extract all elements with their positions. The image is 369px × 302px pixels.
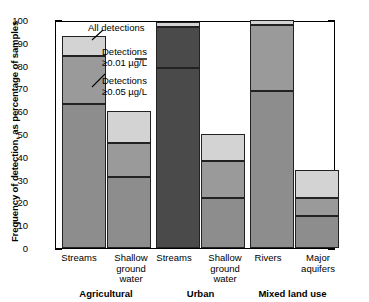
y-tick-label-100: 100 — [0, 16, 28, 26]
x-tick-label-major-aquifers-line2: aquifers — [291, 264, 345, 275]
x-tick-label-urban-sgw-line3: water — [199, 274, 251, 285]
y-tick-label-30: 30 — [0, 176, 28, 186]
bar-segment-detections-005 — [62, 104, 106, 248]
y-tick-label-20: 20 — [0, 198, 28, 208]
annotation-detections-005: Detections ≥0.05 µg/L — [102, 76, 147, 97]
annotation-detections-001-line1: Detections — [102, 47, 147, 58]
group-label-urban: Urban — [150, 288, 251, 299]
y-tick-label-0: 0 — [0, 244, 28, 254]
bar-segment-detections-001 — [295, 198, 339, 216]
chart-figure: Frequency of detection, as percentage of… — [0, 0, 369, 302]
bars-container — [56, 22, 334, 248]
bar-segment-detections-005 — [250, 91, 294, 248]
x-tick-label-major-aquifers-line1: Major — [291, 253, 345, 264]
y-tick-label-90: 90 — [0, 39, 28, 49]
x-tick-label-rivers: Rivers — [244, 253, 292, 264]
bar-segment-detections-001 — [250, 25, 294, 91]
annotation-all-detections: All detections — [88, 23, 145, 34]
y-tick-label-80: 80 — [0, 62, 28, 72]
bar-segment-all-detections — [62, 36, 106, 57]
annotation-detections-001: Detections ≥0.01 µg/L — [102, 47, 147, 68]
bar-segment-all-detections — [107, 111, 151, 143]
bar-segment-all-detections — [201, 134, 245, 161]
y-tick-label-40: 40 — [0, 153, 28, 163]
annotation-detections-005-line2: ≥0.05 µg/L — [102, 87, 147, 98]
y-tick-label-50: 50 — [0, 130, 28, 140]
group-label-mixed-land-use: Mixed land use — [240, 288, 345, 299]
y-tick-label-10: 10 — [0, 221, 28, 231]
bar-segment-detections-005 — [201, 198, 245, 248]
bar-segment-detections-001 — [201, 161, 245, 197]
bar-segment-detections-001 — [107, 143, 151, 177]
x-tick-label-ag-streams: Streams — [55, 253, 103, 264]
group-label-agricultural: Agricultural — [55, 288, 157, 299]
plot-area — [55, 21, 335, 249]
x-tick-label-urban-streams: Streams — [150, 253, 198, 264]
y-tick-label-70: 70 — [0, 84, 28, 94]
bar-segment-all-detections — [295, 170, 339, 197]
bar-mixed-land-use-rivers[interactable] — [250, 20, 294, 248]
bar-agricultural-shallow-ground-water[interactable] — [107, 111, 151, 248]
annotation-detections-005-line1: Detections — [102, 76, 147, 87]
bar-segment-detections-001 — [62, 56, 106, 104]
bar-mixed-land-use-major-aquifers[interactable] — [295, 170, 339, 248]
x-tick-label-ag-sgw-line3: water — [105, 274, 157, 285]
y-tick-label-60: 60 — [0, 107, 28, 117]
annotation-detections-001-line2: ≥0.01 µg/L — [102, 58, 147, 69]
bar-urban-shallow-ground-water[interactable] — [201, 134, 245, 248]
bar-agricultural-streams[interactable] — [62, 36, 106, 248]
bar-segment-detections-001 — [156, 27, 200, 68]
bar-urban-streams[interactable] — [156, 22, 200, 248]
bar-segment-detections-005 — [295, 216, 339, 248]
bar-segment-detections-005 — [107, 177, 151, 248]
x-tick-label-major-aquifers: Major aquifers — [291, 253, 345, 274]
bar-segment-detections-005 — [156, 68, 200, 248]
